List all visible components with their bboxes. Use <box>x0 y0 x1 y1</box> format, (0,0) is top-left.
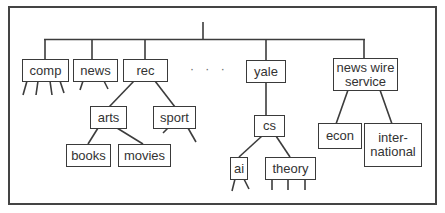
node-comp: comp <box>22 59 69 82</box>
node-theory: theory <box>265 157 316 180</box>
node-news: news <box>73 59 118 82</box>
tree-edges <box>0 0 445 213</box>
node-yale: yale <box>246 60 286 83</box>
node-rec: rec <box>123 59 168 82</box>
ellipsis: · · · <box>190 62 229 76</box>
node-movies: movies <box>118 144 171 167</box>
node-sport: sport <box>153 106 196 129</box>
usenet-hierarchy-diagram: comp news rec · · · yale news wire servi… <box>0 0 445 213</box>
node-international: inter- national <box>364 123 422 167</box>
node-news-wire-service: news wire service <box>333 58 398 91</box>
node-econ: econ <box>318 123 362 149</box>
node-books: books <box>66 144 111 167</box>
node-arts: arts <box>90 106 127 129</box>
node-cs: cs <box>254 115 285 137</box>
node-ai: ai <box>230 157 248 180</box>
